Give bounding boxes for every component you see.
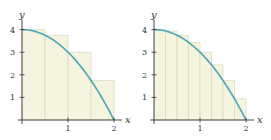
riemann-rectangle	[22, 30, 45, 120]
x-tick-label: 1	[197, 124, 202, 133]
riemann-rectangle	[223, 80, 235, 120]
y-tick-label: 4	[142, 26, 147, 35]
y-axis-label: y	[18, 9, 25, 20]
riemann-rectangle	[166, 31, 178, 120]
riemann-rectangle	[177, 35, 189, 120]
y-tick-label: 2	[142, 71, 147, 80]
y-tick-label: 1	[142, 93, 147, 102]
x-tick-label: 2	[111, 124, 116, 133]
y-tick-label: 3	[10, 48, 15, 57]
y-axis-label: y	[150, 9, 157, 20]
y-tick-label: 3	[142, 48, 147, 57]
x-tick-label: 1	[65, 124, 70, 133]
chart-right-n8: 121234xy	[142, 9, 263, 133]
riemann-rectangle	[68, 52, 91, 120]
riemann-sum-charts: 121234xy 121234xy	[0, 0, 271, 140]
x-axis-label: x	[257, 114, 263, 125]
y-tick-label: 4	[10, 26, 15, 35]
riemann-rectangle	[189, 42, 201, 120]
chart-left-n4: 121234xy	[10, 9, 131, 133]
y-tick-label: 1	[10, 93, 15, 102]
x-axis-label: x	[125, 114, 131, 125]
x-tick-label: 2	[243, 124, 248, 133]
y-tick-label: 2	[10, 71, 15, 80]
